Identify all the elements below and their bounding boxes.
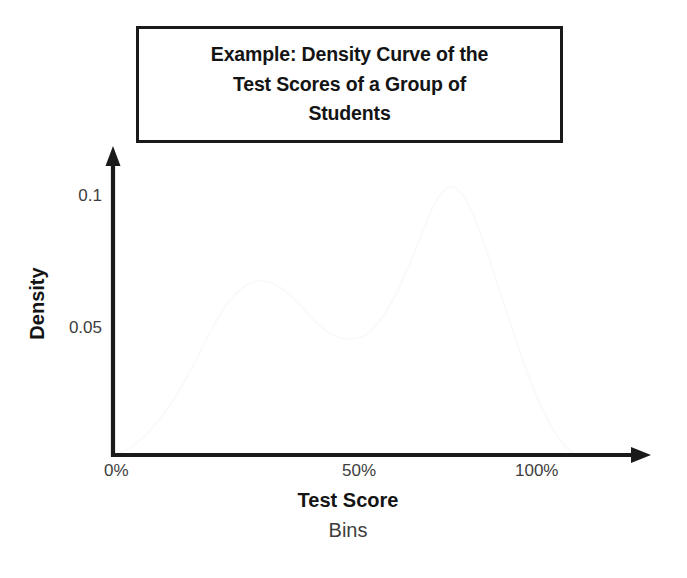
x-axis-tick-label: 0%	[104, 461, 129, 481]
x-axis-title: Test Score	[233, 489, 463, 512]
y-axis-title: Density	[26, 229, 49, 379]
y-axis-tick-label: 0.1	[12, 186, 102, 206]
y-axis-arrow-icon	[106, 146, 121, 166]
density-curve-figure: Example: Density Curve of the Test Score…	[0, 0, 687, 578]
x-axis-tick-label: 50%	[342, 461, 376, 481]
x-axis-arrow-icon	[631, 447, 651, 463]
x-axis-subtitle: Bins	[233, 519, 463, 542]
density-curve-path	[113, 187, 578, 455]
x-axis-tick-label: 100%	[515, 461, 558, 481]
